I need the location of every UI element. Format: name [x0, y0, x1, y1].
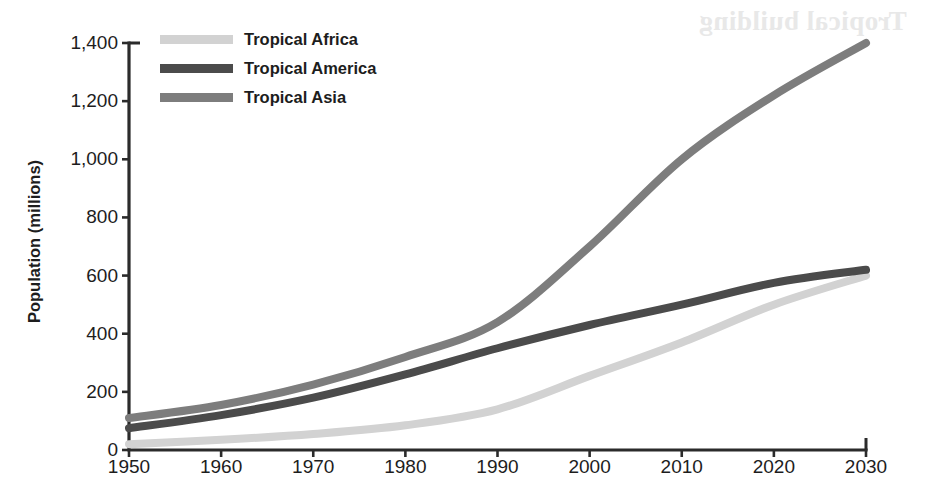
legend: Tropical AfricaTropical AmericaTropical … [160, 30, 376, 106]
y-tick-label-1200: 1,200 [70, 90, 118, 112]
y-axis-tick-labels: 02004006008001,0001,2001,400 [0, 0, 118, 495]
y-tick-label-400: 400 [86, 323, 118, 345]
series-line-tropical-africa [129, 276, 866, 445]
y-tick-label-1400: 1,400 [70, 32, 118, 54]
x-tick-label-1950: 1950 [108, 456, 150, 478]
y-tick-label-600: 600 [86, 265, 118, 287]
legend-swatch-icon [160, 93, 233, 102]
chart-container: Tropical building Population (millions) … [0, 0, 925, 495]
legend-item-tropical-asia: Tropical Asia [160, 88, 376, 106]
legend-item-tropical-america: Tropical America [160, 59, 376, 77]
x-tick-label-1990: 1990 [476, 456, 518, 478]
x-tick-label-1970: 1970 [292, 456, 334, 478]
y-tick-label-200: 200 [86, 381, 118, 403]
legend-swatch-icon [160, 64, 233, 73]
legend-label: Tropical Africa [244, 31, 358, 48]
x-tick-label-2030: 2030 [845, 456, 887, 478]
x-tick-label-2020: 2020 [753, 456, 795, 478]
legend-item-tropical-africa: Tropical Africa [160, 30, 376, 48]
y-tick-label-800: 800 [86, 206, 118, 228]
plot-area [0, 0, 925, 495]
x-tick-label-1980: 1980 [384, 456, 426, 478]
scan-bleedthrough-text: Tropical building [699, 6, 907, 37]
legend-label: Tropical America [244, 60, 376, 77]
y-tick-label-1000: 1,000 [70, 148, 118, 170]
x-tick-label-2010: 2010 [661, 456, 703, 478]
legend-label: Tropical Asia [244, 89, 346, 106]
x-tick-label-2000: 2000 [568, 456, 610, 478]
x-tick-label-1960: 1960 [200, 456, 242, 478]
legend-swatch-icon [160, 35, 233, 44]
